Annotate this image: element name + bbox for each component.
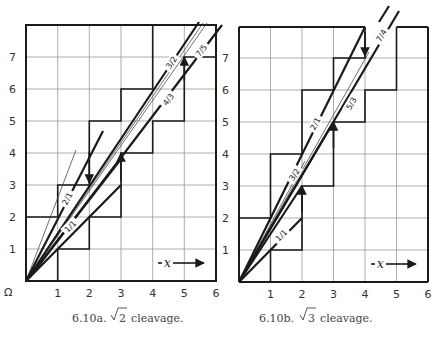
line-7-4-upper xyxy=(379,6,389,22)
svg-text:5: 5 xyxy=(181,287,188,300)
svg-text:1: 1 xyxy=(9,243,16,256)
svg-text:7: 7 xyxy=(9,51,16,64)
svg-text:2: 2 xyxy=(86,287,93,300)
caption-6-10b: 6.10b. 3 cleavage. xyxy=(259,308,373,325)
y-tick-labels: 1 2 3 4 5 6 7 xyxy=(222,52,229,257)
x-tick-labels: 1 2 3 4 5 6 xyxy=(267,288,432,301)
line-1-1 xyxy=(26,185,121,281)
svg-text:6: 6 xyxy=(425,288,432,301)
y-tick-labels: 1 2 3 4 5 6 7 xyxy=(9,51,16,256)
svg-text:2: 2 xyxy=(9,211,16,224)
svg-text:3: 3 xyxy=(330,288,337,301)
origin-label: Ω xyxy=(4,286,12,299)
svg-text:5: 5 xyxy=(222,116,229,129)
svg-text:2: 2 xyxy=(119,312,126,325)
svg-text:cleavage.: cleavage. xyxy=(131,312,184,325)
svg-text:6: 6 xyxy=(9,83,16,96)
svg-text:4: 4 xyxy=(362,288,369,301)
svg-text:5: 5 xyxy=(393,288,400,301)
svg-text:x: x xyxy=(164,256,171,270)
figure-canvas: 1/1 2/1 3/2 4/3 7/5 x Ω 1 2 3 xyxy=(0,0,442,339)
line-7-5 xyxy=(30,25,222,277)
lower-staircase xyxy=(58,57,216,281)
svg-text:4: 4 xyxy=(149,287,156,300)
svg-text:1: 1 xyxy=(267,288,274,301)
svg-text:5: 5 xyxy=(9,115,16,128)
svg-text:6: 6 xyxy=(213,287,220,300)
svg-text:1: 1 xyxy=(54,287,61,300)
x-direction-indicator: x xyxy=(158,256,204,270)
svg-text:6.10a.: 6.10a. xyxy=(72,312,107,325)
line-label-7-4: 7/4 xyxy=(372,25,390,46)
x-tick-labels: 1 2 3 4 5 6 xyxy=(54,287,219,300)
svg-text:4: 4 xyxy=(222,148,229,161)
svg-text:cleavage.: cleavage. xyxy=(320,312,373,325)
line-7-4 xyxy=(241,11,399,278)
svg-text:6: 6 xyxy=(222,84,229,97)
svg-text:2: 2 xyxy=(222,212,229,225)
x-direction-indicator: x xyxy=(371,257,416,271)
svg-text:3: 3 xyxy=(308,312,315,325)
line-label-4-3: 4/3 xyxy=(159,89,178,109)
svg-text:1: 1 xyxy=(222,244,229,257)
svg-text:6.10b.: 6.10b. xyxy=(259,312,294,325)
svg-text:3: 3 xyxy=(118,287,125,300)
svg-text:x: x xyxy=(377,257,384,271)
svg-text:2: 2 xyxy=(299,288,306,301)
figure-6-10a: 1/1 2/1 3/2 4/3 7/5 x Ω 1 2 3 xyxy=(4,22,222,325)
svg-text:3: 3 xyxy=(222,180,229,193)
caption-6-10a: 6.10a. 2 cleavage. xyxy=(72,308,184,325)
svg-text:4: 4 xyxy=(9,147,16,160)
figure-6-10b: 1/1 3/2 2/1 5/3 7/4 x 1 2 3 4 5 xyxy=(222,6,432,325)
svg-text:3: 3 xyxy=(9,179,16,192)
svg-text:7: 7 xyxy=(222,52,229,65)
